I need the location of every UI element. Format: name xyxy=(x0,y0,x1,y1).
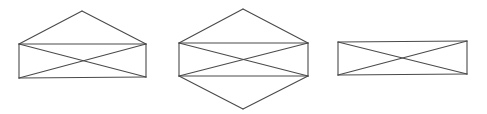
background xyxy=(0,0,487,114)
diagram-canvas xyxy=(0,0,487,114)
